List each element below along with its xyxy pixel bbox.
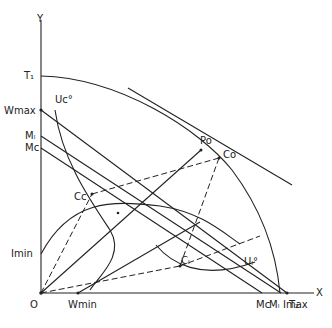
- x-axis-label: X: [316, 288, 323, 298]
- diagram: Y X O T₁ Wmax Mₗ Mc Imin Wmin Mc Mₗ Imax…: [0, 0, 332, 328]
- label-wmin: Wmin: [68, 300, 97, 310]
- label-wmax: Wmax: [4, 106, 36, 116]
- ray-o-p0: [41, 150, 201, 293]
- label-uc: Uc°: [55, 95, 73, 105]
- label-mc-y: Mc: [25, 143, 39, 153]
- label-t1: T₁: [24, 71, 34, 81]
- y-axis-label: Y: [37, 14, 43, 24]
- dashed-ray-o-cc: [41, 194, 92, 293]
- label-t2: T₂: [289, 300, 299, 310]
- origin-label: O: [30, 300, 38, 310]
- label-cl: Cₗ: [181, 256, 190, 266]
- label-imin: Imin: [11, 249, 33, 259]
- label-ml-y: Mₗ: [25, 131, 35, 141]
- label-ul: Uₗ°: [244, 257, 258, 267]
- label-c0: Co: [223, 150, 236, 160]
- dashed-cc-c0: [92, 158, 219, 194]
- dashed-ray-o-cl: [41, 266, 180, 293]
- label-ml-x: Mₗ: [269, 300, 279, 310]
- label-cc: Cc: [74, 192, 86, 202]
- label-p0: Po: [200, 136, 212, 146]
- diagram-graphics: [0, 0, 332, 328]
